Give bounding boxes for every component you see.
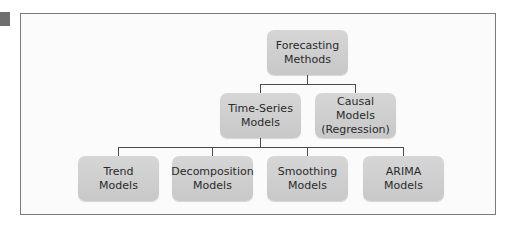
node-time-series-models: Time-SeriesModels [220,93,301,138]
connector-to-time-series [260,84,261,93]
node-forecasting-methods: ForecastingMethods [267,30,348,75]
node-label-line2: Models [241,116,280,129]
connector-to-causal [355,84,356,93]
node-smoothing-models: SmoothingModels [267,156,348,201]
connector-level2-bar [118,147,404,148]
node-label-line1: ARIMA [386,165,421,178]
node-label-line1: Causal Models [336,95,375,122]
node-label-line1: Forecasting [276,39,340,52]
node-label-line2: Methods [284,53,331,66]
connector-to-arima [403,147,404,156]
node-causal-models: Causal Models(Regression) [315,93,396,138]
node-label-line2: Models [99,179,138,192]
connector-level1-bar [260,84,356,85]
connector-to-trend [118,147,119,156]
node-decomposition-models: DecompositionModels [172,156,253,201]
section-marker [0,12,10,26]
node-label-line1: Trend [103,165,133,178]
node-label-line2: Models [288,179,327,192]
node-arima-models: ARIMAModels [363,156,444,201]
connector-to-decomposition [212,147,213,156]
connector-to-smoothing [307,147,308,156]
node-label-line2: Models [193,179,232,192]
node-label-line1: Smoothing [278,165,337,178]
node-label-line1: Time-Series [228,102,293,115]
node-label-line2: Models [384,179,423,192]
node-trend-models: TrendModels [78,156,159,201]
node-label-line2: (Regression) [321,123,390,136]
node-label-line1: Decomposition [171,165,253,178]
